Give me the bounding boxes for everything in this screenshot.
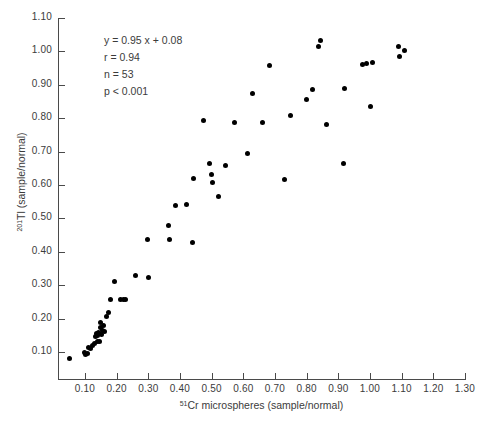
data-point	[207, 161, 212, 166]
y-tick-label: 0.20	[18, 312, 52, 323]
data-point	[97, 339, 102, 344]
x-axis-title-text: Cr microspheres (sample/normal)	[188, 399, 344, 411]
data-point	[282, 177, 287, 182]
x-tick-label: 1.30	[445, 383, 485, 394]
data-point	[184, 202, 189, 207]
data-point	[245, 151, 250, 156]
scatter-plot-figure: 0.100.200.300.400.500.600.700.800.901.00…	[0, 0, 485, 424]
data-point	[210, 180, 215, 185]
data-point	[173, 203, 178, 208]
x-axis-title: 51Cr microspheres (sample/normal)	[58, 399, 465, 411]
y-axis-title-text: Tl (sample/normal)	[15, 132, 27, 220]
y-tick-label: 1.00	[18, 44, 52, 55]
data-point	[112, 279, 117, 284]
data-point	[145, 237, 150, 242]
data-point	[368, 104, 373, 109]
x-tick-mark	[465, 373, 466, 380]
data-point	[397, 54, 402, 59]
data-point	[232, 120, 237, 125]
data-point	[250, 91, 255, 96]
data-point	[364, 61, 369, 66]
data-point	[102, 329, 107, 334]
y-axis-title: 201Tl (sample/normal)	[15, 82, 27, 282]
y-axis-title-superscript: 201	[16, 220, 23, 232]
data-point	[133, 273, 138, 278]
plot-data-area	[58, 18, 465, 380]
y-tick-label: 1.10	[18, 11, 52, 22]
data-point	[341, 161, 346, 166]
data-point	[223, 163, 228, 168]
data-point	[67, 356, 72, 361]
data-point	[216, 194, 221, 199]
x-axis-title-superscript: 51	[180, 400, 188, 407]
data-point	[396, 44, 401, 49]
y-tick-label: 0.10	[18, 345, 52, 356]
data-point	[209, 172, 214, 177]
data-point	[123, 297, 128, 302]
data-point	[101, 323, 106, 328]
data-point	[191, 176, 196, 181]
data-point	[85, 351, 90, 356]
